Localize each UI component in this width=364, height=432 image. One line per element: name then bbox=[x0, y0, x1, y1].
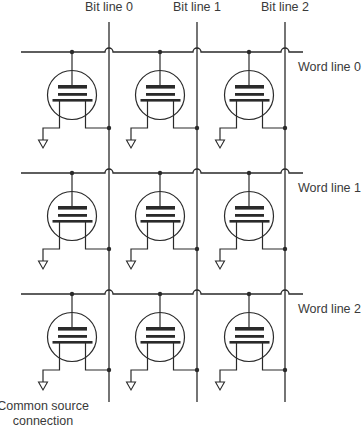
drain-junction-dot bbox=[283, 368, 287, 372]
word-lines bbox=[21, 48, 303, 294]
ground-icon bbox=[216, 261, 225, 269]
channel-bar bbox=[141, 220, 181, 223]
floating-gate-bar bbox=[235, 214, 264, 217]
word-line-0-label: Word line 0 bbox=[298, 60, 361, 74]
common-source-label-line1: Common source bbox=[0, 399, 89, 414]
drain-wire bbox=[263, 222, 286, 249]
floating-gate-bar bbox=[146, 93, 175, 96]
drain-junction-dot bbox=[195, 126, 199, 130]
memory-cell-r2-c2 bbox=[216, 292, 288, 390]
ground-icon bbox=[216, 140, 225, 148]
control-gate-bar bbox=[58, 85, 87, 89]
channel-bar bbox=[141, 99, 181, 102]
ground-icon bbox=[127, 140, 136, 148]
bit-line-0-label: Bit line 0 bbox=[85, 0, 133, 14]
bit-line-2-label: Bit line 2 bbox=[261, 0, 309, 14]
word-line-2-label: Word line 2 bbox=[298, 302, 361, 316]
floating-gate-bar bbox=[58, 335, 87, 338]
control-gate-bar bbox=[235, 327, 264, 331]
memory-cell-r2-c1 bbox=[127, 292, 200, 390]
memory-cell-r1-c0 bbox=[39, 171, 112, 269]
ground-icon bbox=[216, 382, 225, 390]
floating-gate-bar bbox=[146, 335, 175, 338]
floating-gate-bar bbox=[58, 214, 87, 217]
drain-wire bbox=[86, 222, 110, 249]
source-wire bbox=[43, 343, 60, 382]
memory-cell-r0-c1 bbox=[127, 50, 200, 148]
channel-bar bbox=[53, 220, 93, 223]
source-wire bbox=[43, 101, 60, 140]
control-gate-bar bbox=[58, 327, 87, 331]
channel-bar bbox=[53, 99, 93, 102]
memory-cell-r2-c0 bbox=[39, 292, 112, 390]
control-gate-bar bbox=[235, 85, 264, 89]
control-gate-bar bbox=[235, 206, 264, 210]
memory-cell-r0-c0 bbox=[39, 50, 112, 148]
memory-cell-r1-c1 bbox=[127, 171, 200, 269]
control-gate-bar bbox=[58, 206, 87, 210]
drain-wire bbox=[86, 101, 110, 128]
source-wire bbox=[220, 101, 237, 140]
source-wire bbox=[220, 343, 237, 382]
channel-bar bbox=[230, 341, 270, 344]
bit-line-1-label: Bit line 1 bbox=[173, 0, 221, 14]
drain-junction-dot bbox=[195, 247, 199, 251]
common-source-label: Common source connection bbox=[0, 399, 89, 429]
drain-junction-dot bbox=[195, 368, 199, 372]
ground-icon bbox=[127, 261, 136, 269]
drain-junction-dot bbox=[107, 247, 111, 251]
channel-bar bbox=[230, 220, 270, 223]
drain-junction-dot bbox=[107, 368, 111, 372]
floating-gate-bar bbox=[235, 93, 264, 96]
memory-cell-r0-c2 bbox=[216, 50, 288, 148]
ground-icon bbox=[39, 382, 48, 390]
source-wire bbox=[43, 222, 60, 261]
control-gate-bar bbox=[146, 85, 175, 89]
drain-wire bbox=[86, 343, 110, 370]
floating-gate-bar bbox=[58, 93, 87, 96]
ground-icon bbox=[39, 261, 48, 269]
common-source-label-line2: connection bbox=[0, 414, 89, 429]
source-wire bbox=[131, 343, 148, 382]
memory-cell-r1-c2 bbox=[216, 171, 288, 269]
drain-wire bbox=[174, 101, 198, 128]
source-wire bbox=[220, 222, 237, 261]
drain-junction-dot bbox=[283, 126, 287, 130]
drain-wire bbox=[263, 343, 286, 370]
drain-junction-dot bbox=[107, 126, 111, 130]
control-gate-bar bbox=[146, 206, 175, 210]
drain-wire bbox=[174, 343, 198, 370]
floating-gate-bar bbox=[235, 335, 264, 338]
channel-bar bbox=[53, 341, 93, 344]
ground-icon bbox=[39, 140, 48, 148]
drain-junction-dot bbox=[283, 247, 287, 251]
source-wire bbox=[131, 101, 148, 140]
control-gate-bar bbox=[146, 327, 175, 331]
word-line-1-label: Word line 1 bbox=[298, 181, 361, 195]
source-wire bbox=[131, 222, 148, 261]
drain-wire bbox=[174, 222, 198, 249]
channel-bar bbox=[230, 99, 270, 102]
ground-icon bbox=[127, 382, 136, 390]
memory-cells bbox=[39, 50, 288, 390]
channel-bar bbox=[141, 341, 181, 344]
floating-gate-bar bbox=[146, 214, 175, 217]
drain-wire bbox=[263, 101, 286, 128]
